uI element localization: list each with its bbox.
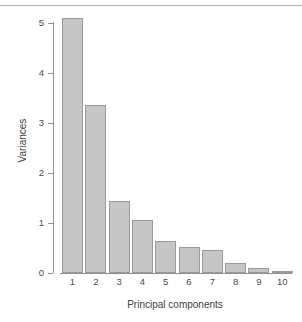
bar bbox=[62, 18, 83, 273]
x-axis-tick-label: 9 bbox=[247, 277, 271, 287]
x-axis-tick-label: 6 bbox=[177, 277, 201, 287]
x-axis-tick-label: 8 bbox=[224, 277, 248, 287]
y-axis-tick-mark bbox=[48, 223, 53, 224]
bar bbox=[179, 247, 200, 273]
x-axis-title: Principal components bbox=[0, 299, 302, 310]
x-axis-tick-label: 2 bbox=[84, 277, 108, 287]
bar bbox=[202, 250, 223, 273]
x-axis-tick-label: 10 bbox=[270, 277, 294, 287]
y-axis-tick-label: 1 bbox=[24, 218, 44, 227]
y-axis-tick-mark bbox=[48, 173, 53, 174]
x-axis-tick-label: 1 bbox=[61, 277, 85, 287]
y-axis-tick-mark bbox=[48, 123, 53, 124]
bar bbox=[155, 241, 176, 273]
bar bbox=[85, 105, 106, 273]
y-axis-line bbox=[53, 22, 54, 273]
y-axis-title: Variances bbox=[17, 81, 28, 201]
y-axis-tick-mark bbox=[48, 23, 53, 24]
plot-area: 012345 12345678910 Variances Principal c… bbox=[0, 0, 302, 322]
x-axis-tick-label: 5 bbox=[154, 277, 178, 287]
x-axis-tick-label: 3 bbox=[107, 277, 131, 287]
y-axis-tick-mark bbox=[48, 273, 53, 274]
y-axis-tick-label: 4 bbox=[24, 68, 44, 77]
bar bbox=[132, 220, 153, 273]
scree-plot-figure: 012345 12345678910 Variances Principal c… bbox=[0, 0, 302, 322]
x-axis-tick-label: 4 bbox=[130, 277, 154, 287]
x-axis-tick-label: 7 bbox=[200, 277, 224, 287]
bar bbox=[225, 263, 246, 273]
bar bbox=[272, 271, 293, 273]
y-axis-tick-label: 0 bbox=[24, 268, 44, 277]
bar bbox=[109, 201, 130, 273]
bar bbox=[248, 268, 269, 273]
y-axis-tick-label: 5 bbox=[24, 18, 44, 27]
x-axis-line bbox=[60, 273, 292, 274]
y-axis-tick-mark bbox=[48, 73, 53, 74]
